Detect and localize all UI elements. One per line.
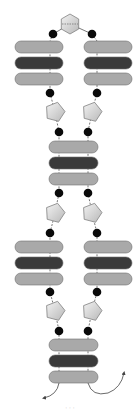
pentagon-connector [84, 203, 102, 222]
bead [55, 189, 64, 198]
light-bar [84, 73, 132, 85]
stack-lower-left [15, 241, 63, 285]
dark-bar [15, 57, 63, 69]
dark-bar [84, 257, 132, 269]
bar-stacks [15, 41, 132, 383]
light-bar [15, 41, 63, 53]
light-bar [15, 273, 63, 285]
light-bar [49, 371, 98, 383]
light-bar [49, 339, 98, 351]
dark-bar [15, 257, 63, 269]
bead [46, 288, 55, 297]
bead [84, 128, 93, 137]
bead [93, 288, 102, 297]
bead [84, 189, 93, 198]
bead [46, 229, 55, 238]
dark-bar [84, 57, 132, 69]
pentagon-connector [47, 203, 65, 222]
light-bar [84, 273, 132, 285]
light-bar [15, 241, 63, 253]
stack-lower-right [84, 241, 132, 285]
bead [49, 30, 58, 39]
light-bar [49, 141, 98, 153]
light-bar [84, 241, 132, 253]
stack-upper-left [15, 41, 63, 85]
left-exit-arrow [44, 383, 59, 398]
pentagon-connector [84, 102, 102, 121]
assembly-diagram [0, 0, 140, 420]
dark-bar [49, 157, 98, 169]
pentagon-connector [47, 102, 65, 121]
bead [46, 89, 55, 98]
bead [93, 89, 102, 98]
stack-middle [49, 141, 98, 185]
pentagon-connector [84, 301, 102, 320]
bead [55, 128, 64, 137]
caption: · · · [0, 404, 140, 411]
light-bar [49, 173, 98, 185]
diagram-canvas: · · · [0, 0, 140, 420]
light-bar [15, 73, 63, 85]
pentagon-connector [47, 301, 65, 320]
light-bar [84, 41, 132, 53]
stack-bottom [49, 339, 98, 383]
bead [84, 327, 93, 336]
bead [93, 229, 102, 238]
bead [88, 30, 97, 39]
bead [55, 327, 64, 336]
stack-upper-right [84, 41, 132, 85]
dark-bar [49, 355, 98, 367]
